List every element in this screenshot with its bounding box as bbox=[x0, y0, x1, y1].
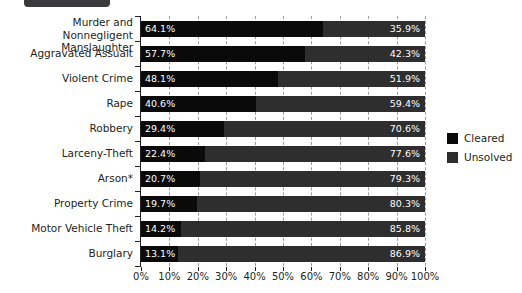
x-axis-tick bbox=[425, 267, 426, 271]
bar-value-label-unsolved: 70.6% bbox=[390, 122, 420, 136]
x-axis-tick bbox=[255, 267, 256, 271]
category-label: Arson* bbox=[1, 172, 133, 185]
stacked-bar-chart: Murder and Nonnegligent ManslaughterAggr… bbox=[0, 0, 522, 293]
bar-value-label-unsolved: 85.8% bbox=[390, 222, 420, 236]
y-axis-tick bbox=[135, 16, 140, 17]
bar-row: 29.4%70.6% bbox=[141, 121, 425, 137]
category-label: Larceny-Theft bbox=[1, 147, 133, 160]
x-axis-tick-label: 10% bbox=[158, 271, 180, 282]
category-label: Aggravated Assualt bbox=[1, 47, 133, 60]
legend-swatch-icon bbox=[447, 133, 458, 144]
x-axis-tick-label: 90% bbox=[385, 271, 407, 282]
x-axis-tick bbox=[340, 267, 341, 271]
x-axis-tick-label: 70% bbox=[329, 271, 351, 282]
y-axis-tick bbox=[135, 66, 140, 67]
bar-value-label-cleared: 64.1% bbox=[145, 22, 175, 36]
bar-segment-unsolved bbox=[181, 221, 425, 237]
bar-value-label-cleared: 29.4% bbox=[145, 122, 175, 136]
bar-row: 57.7%42.3% bbox=[141, 46, 425, 62]
x-axis-tick-label: 40% bbox=[243, 271, 265, 282]
category-label: Burglary bbox=[1, 247, 133, 260]
bar-value-label-unsolved: 80.3% bbox=[390, 197, 420, 211]
plot-area: 64.1%35.9%57.7%42.3%48.1%51.9%40.6%59.4%… bbox=[141, 16, 425, 266]
x-axis-tick bbox=[198, 267, 199, 271]
bar-value-label-cleared: 20.7% bbox=[145, 172, 175, 186]
bar-value-label-unsolved: 51.9% bbox=[390, 72, 420, 86]
x-axis-tick bbox=[226, 267, 227, 271]
bar-value-label-cleared: 40.6% bbox=[145, 97, 175, 111]
y-axis-tick bbox=[135, 91, 140, 92]
x-axis-tick-labels: 0%10%20%30%40%50%60%70%80%90%100% bbox=[141, 271, 441, 287]
legend-item[interactable]: Unsolved bbox=[447, 149, 519, 165]
y-axis-tick bbox=[135, 166, 140, 167]
x-axis-tick-label: 60% bbox=[300, 271, 322, 282]
y-axis-tick bbox=[135, 241, 140, 242]
gridline bbox=[425, 16, 426, 266]
y-axis-tick bbox=[135, 41, 140, 42]
bar-value-label-unsolved: 35.9% bbox=[390, 22, 420, 36]
category-label: Violent Crime bbox=[1, 72, 133, 85]
y-axis-tick bbox=[135, 216, 140, 217]
bar-row: 48.1%51.9% bbox=[141, 71, 425, 87]
bar-row: 22.4%77.6% bbox=[141, 146, 425, 162]
bar-value-label-unsolved: 77.6% bbox=[390, 147, 420, 161]
x-axis-tick bbox=[141, 267, 142, 271]
bar-value-label-unsolved: 59.4% bbox=[390, 97, 420, 111]
bar-row: 13.1%86.9% bbox=[141, 246, 425, 262]
y-axis-tick bbox=[135, 141, 140, 142]
y-axis-tick bbox=[135, 191, 140, 192]
category-label: Rape bbox=[1, 97, 133, 110]
bar-value-label-cleared: 22.4% bbox=[145, 147, 175, 161]
category-axis-labels: Murder and Nonnegligent ManslaughterAggr… bbox=[0, 16, 133, 266]
bar-row: 64.1%35.9% bbox=[141, 21, 425, 37]
bar-row: 14.2%85.8% bbox=[141, 221, 425, 237]
x-axis-tick-label: 50% bbox=[272, 271, 294, 282]
x-axis-tick-label: 80% bbox=[357, 271, 379, 282]
x-axis-tick-label: 100% bbox=[411, 271, 440, 282]
x-axis-tick bbox=[311, 267, 312, 271]
bar-value-label-unsolved: 42.3% bbox=[390, 47, 420, 61]
bar-row: 20.7%79.3% bbox=[141, 171, 425, 187]
category-label: Motor Vehicle Theft bbox=[1, 222, 133, 235]
chart-legend: ClearedUnsolved bbox=[447, 130, 519, 168]
y-axis-tick bbox=[135, 116, 140, 117]
x-axis-tick bbox=[169, 267, 170, 271]
bar-value-label-cleared: 13.1% bbox=[145, 247, 175, 261]
bar-row: 40.6%59.4% bbox=[141, 96, 425, 112]
bar-value-label-unsolved: 86.9% bbox=[390, 247, 420, 261]
x-axis-tick bbox=[283, 267, 284, 271]
category-label: Robbery bbox=[1, 122, 133, 135]
legend-item[interactable]: Cleared bbox=[447, 130, 519, 146]
y-axis-tick bbox=[135, 266, 140, 267]
x-axis-tick bbox=[368, 267, 369, 271]
legend-swatch-icon bbox=[447, 152, 458, 163]
bar-value-label-cleared: 14.2% bbox=[145, 222, 175, 236]
legend-label: Cleared bbox=[464, 132, 504, 144]
x-axis-tick bbox=[397, 267, 398, 271]
x-axis-tick-label: 0% bbox=[133, 271, 149, 282]
bar-segment-unsolved bbox=[178, 246, 425, 262]
bar-value-label-unsolved: 79.3% bbox=[390, 172, 420, 186]
legend-label: Unsolved bbox=[464, 151, 513, 163]
bar-value-label-cleared: 48.1% bbox=[145, 72, 175, 86]
bar-row: 19.7%80.3% bbox=[141, 196, 425, 212]
x-axis-tick-label: 30% bbox=[215, 271, 237, 282]
x-axis-tick-label: 20% bbox=[187, 271, 209, 282]
category-label: Property Crime bbox=[1, 197, 133, 210]
bar-value-label-cleared: 19.7% bbox=[145, 197, 175, 211]
bar-value-label-cleared: 57.7% bbox=[145, 47, 175, 61]
